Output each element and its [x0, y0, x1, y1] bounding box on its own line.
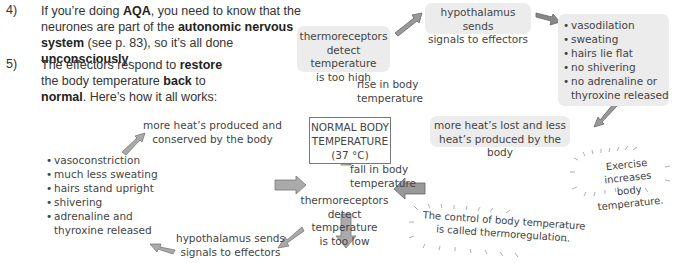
- arrow-right-icon: [536, 13, 560, 25]
- hot-responses-box: vasodilation sweating hairs lie flat no …: [558, 14, 669, 106]
- rise-label: rise in body temperature: [357, 78, 423, 105]
- detect-too-low-text: thermoreceptors detect temperature is to…: [298, 194, 391, 248]
- hypothalamus-high-box: hypothalamus sends signals to effectors: [425, 3, 531, 34]
- cold-result-text: more heat’s produced and conserved by th…: [143, 119, 282, 146]
- hypothalamus-low-text: hypothalamus sends signals to effectors: [176, 232, 285, 259]
- note-exercise: Exercise increases body temperature.: [582, 153, 673, 214]
- cold-responses-list: vasoconstriction much less sweating hair…: [46, 153, 158, 237]
- arrow-diag-icon: [395, 13, 422, 36]
- hot-responses-list: vasodilation sweating hairs lie flat no …: [563, 18, 669, 102]
- normal-body-temperature-box: NORMAL BODY TEMPERATURE (37 °C): [309, 117, 391, 164]
- hot-result-box: more heat’s lost and less heat’s produce…: [430, 116, 570, 147]
- arrow-left-icon: [150, 244, 175, 254]
- fall-label: fall in body temperature: [350, 163, 416, 190]
- arrow-up-right-icon: [122, 133, 145, 155]
- detect-too-high-box: thermoreceptors detect temperature is to…: [297, 26, 390, 72]
- arrow-down-left-icon: [594, 103, 617, 127]
- arrow-right-icon: [275, 176, 306, 194]
